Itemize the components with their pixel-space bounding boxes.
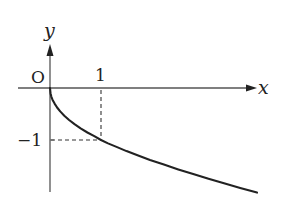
x-tick-label-1: 1: [95, 65, 106, 85]
y-tick-label-minus1: −1: [17, 130, 42, 150]
function-graph: y x O 1 −1: [0, 0, 282, 208]
y-axis-arrow-icon: [47, 44, 54, 56]
curve-y-neg-sqrt-x: [50, 88, 101, 141]
x-axis-label: x: [258, 76, 269, 98]
y-axis: [47, 44, 54, 192]
origin-label: O: [31, 67, 45, 87]
x-axis-arrow-icon: [246, 85, 257, 92]
y-axis-label: y: [43, 19, 55, 41]
x-axis: [18, 85, 257, 92]
